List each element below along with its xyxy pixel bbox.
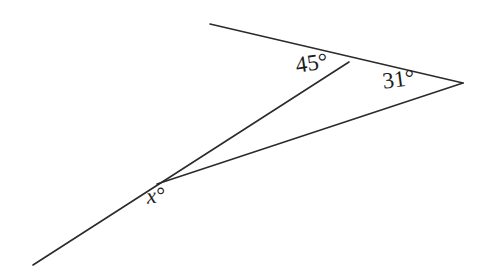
angle-label-45: 45° [294,49,329,77]
geometry-canvas [0,0,484,277]
angle-label-x-unknown: x° [145,184,166,208]
figure-background [0,0,484,277]
angle-label-31: 31° [381,66,416,93]
geometry-figure: 45° 31° x° [0,0,484,277]
